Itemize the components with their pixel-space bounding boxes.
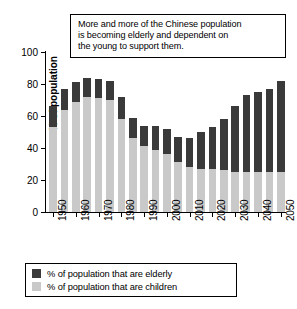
bar-segment-children [49, 127, 57, 212]
bar-segment-elderly [49, 106, 57, 127]
bar-segment-elderly [231, 106, 239, 172]
x-axis-tick [144, 212, 145, 217]
bar-2040 [254, 92, 262, 212]
bar-segment-elderly [220, 119, 228, 170]
bar-segment-elderly [83, 78, 91, 97]
chart-legend: % of population that are elderly % of po… [25, 263, 237, 297]
bar-segment-children [95, 98, 103, 212]
x-axis-tick-label: 2000 [171, 200, 182, 221]
bar-2000 [163, 129, 171, 212]
x-axis-tick-label: 1980 [125, 200, 136, 221]
bar-2035 [243, 95, 251, 212]
x-axis-tick [121, 212, 122, 217]
x-axis-ticks: 1950196019701980199020002010202020302040… [46, 212, 285, 218]
bar-2025 [220, 119, 228, 212]
annotation-line-3: the young to support them. [78, 41, 279, 52]
x-axis-tick [190, 212, 191, 217]
x-axis-tick [167, 212, 168, 217]
bar-segment-children [277, 172, 285, 212]
x-axis-tick-label: 2020 [216, 200, 227, 221]
bar-segment-children [254, 172, 262, 212]
bar-1965 [83, 78, 91, 212]
chart-figure: More and more of the Chinese population … [0, 0, 297, 309]
bar-segment-elderly [72, 82, 80, 101]
annotation-callout: More and more of the Chinese population … [70, 14, 286, 58]
x-axis-tick [212, 212, 213, 217]
y-axis-tick-label: 40 [27, 142, 38, 155]
bar-1985 [129, 118, 137, 212]
annotation-line-2: is becoming elderly and dependent on [78, 30, 279, 41]
bar-1970 [95, 79, 103, 212]
bar-segment-elderly [129, 118, 137, 139]
x-axis-tick-label: 2030 [239, 200, 250, 221]
bar-1960 [72, 82, 80, 212]
bar-segment-elderly [254, 92, 262, 172]
bar-segment-children [83, 97, 91, 212]
y-axis-tick-label: 60 [27, 110, 38, 123]
bar-segment-children [163, 154, 171, 212]
bar-2010 [186, 138, 194, 212]
bar-segment-elderly [118, 97, 126, 119]
y-axis-tick-label: 20 [27, 174, 38, 187]
x-axis-tick [99, 212, 100, 217]
bar-segment-elderly [197, 132, 205, 169]
x-axis-tick-label: 1990 [148, 200, 159, 221]
bar-1990 [140, 126, 148, 212]
bar-1980 [118, 97, 126, 212]
legend-item-children: % of population that are children [32, 280, 231, 293]
y-axis-tick-label: 0 [32, 206, 38, 219]
bar-segment-children [61, 110, 69, 212]
bar-1975 [106, 81, 114, 212]
legend-swatch-elderly-icon [32, 269, 41, 278]
x-axis-tick-label: 2050 [285, 200, 296, 221]
bar-segment-elderly [140, 126, 148, 147]
x-axis-tick-label: 1970 [103, 200, 114, 221]
bar-segment-children [186, 167, 194, 212]
x-axis-tick [258, 212, 259, 217]
bar-segment-children [106, 100, 114, 212]
legend-label-children: % of population that are children [47, 281, 177, 293]
bar-segment-elderly [61, 89, 69, 110]
x-axis-tick [53, 212, 54, 217]
bar-segment-children [118, 119, 126, 212]
bar-segment-elderly [266, 89, 274, 172]
bar-1950 [49, 106, 57, 212]
bar-segment-elderly [163, 129, 171, 155]
x-axis-tick [76, 212, 77, 217]
x-axis-tick [235, 212, 236, 217]
legend-label-elderly: % of population that are elderly [47, 268, 172, 280]
bar-group [46, 52, 285, 212]
y-axis-tick-label: 100 [21, 46, 38, 59]
x-axis-tick-label: 1950 [57, 200, 68, 221]
bar-2045 [266, 89, 274, 212]
bar-segment-elderly [209, 127, 217, 169]
x-axis-tick [281, 212, 282, 217]
bar-segment-elderly [152, 126, 160, 150]
x-axis-tick-label: 1960 [80, 200, 91, 221]
bar-segment-elderly [106, 81, 114, 100]
x-axis-tick-label: 2010 [194, 200, 205, 221]
bar-segment-children [231, 172, 239, 212]
bar-2030 [231, 106, 239, 212]
bar-segment-children [140, 146, 148, 212]
bar-segment-elderly [243, 95, 251, 172]
bar-segment-elderly [186, 138, 194, 167]
bar-2050 [277, 81, 285, 212]
bar-segment-elderly [277, 81, 285, 172]
bar-segment-elderly [174, 137, 182, 163]
bar-segment-elderly [95, 79, 103, 98]
bar-1955 [61, 89, 69, 212]
plot-area: 020406080100 195019601970198019902000201… [46, 52, 285, 212]
legend-swatch-children-icon [32, 282, 41, 291]
bar-segment-children [72, 102, 80, 212]
y-axis-tick-label: 80 [27, 78, 38, 91]
x-axis-tick-label: 2040 [262, 200, 273, 221]
legend-item-elderly: % of population that are elderly [32, 267, 231, 280]
annotation-line-1: More and more of the Chinese population [78, 19, 279, 30]
